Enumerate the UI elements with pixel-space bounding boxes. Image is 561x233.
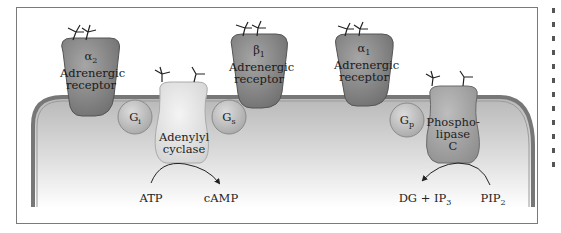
gp-label: Gp: [395, 114, 419, 131]
alpha1-receptor-label: α1 Adrenergic receptor: [334, 42, 394, 83]
atp-label: ATP: [136, 192, 166, 204]
glycosylation-icon: [155, 67, 205, 82]
alpha2-receptor-label: α2 Adrenergic receptor: [60, 50, 122, 91]
dg-ip3-label: DG + IP3: [393, 192, 457, 209]
cropped-margin-text: [550, 8, 560, 208]
beta1-receptor-label: β1 Adrenergic receptor: [229, 44, 289, 85]
adenylyl-cyclase-label: Adenylyl cyclase: [156, 131, 212, 155]
gi-label: Gi: [123, 111, 147, 128]
camp-label: cAMP: [203, 192, 239, 204]
gs-label: Gs: [217, 111, 241, 128]
phospholipase-c-label: Phospho- lipase C: [425, 116, 481, 152]
pip2-label: PIP2: [476, 192, 510, 209]
glycosylation-icon: [426, 71, 473, 86]
